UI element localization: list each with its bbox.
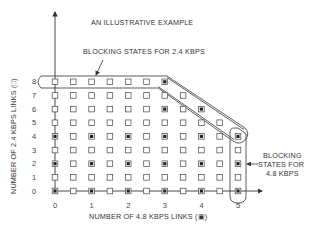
state-2-4-square: [199, 120, 205, 126]
y-tick-label: 2: [32, 159, 36, 168]
state-2-4-square: [144, 106, 150, 112]
filled-dot: [90, 189, 93, 192]
blocking-4-8-label-line1: BLOCKING: [263, 151, 302, 160]
state-2-4-square: [52, 120, 58, 126]
x-tick-label: 0: [53, 201, 57, 210]
state-2-4-square: [144, 188, 150, 194]
x-tick-label: 4: [199, 201, 203, 210]
state-2-4-square: [217, 188, 223, 194]
state-2-4-square: [89, 120, 95, 126]
state-2-4-square: [89, 106, 95, 112]
blocking-2-4-leader-arrow: [96, 60, 103, 75]
state-2-4-square: [180, 106, 186, 112]
blocking-2-4-label: BLOCKING STATES FOR 2.4 KBPS: [83, 47, 205, 56]
state-2-4-square: [144, 175, 150, 181]
filled-dot: [127, 189, 130, 192]
state-2-4-square: [180, 120, 186, 126]
x-tick-label: 3: [163, 201, 167, 210]
state-2-4-square: [125, 120, 131, 126]
state-2-4-square: [199, 175, 205, 181]
y-tick-label: 0: [32, 187, 36, 196]
x-tick-label: 2: [126, 201, 130, 210]
filled-dot: [90, 162, 93, 165]
filled-dot: [53, 189, 56, 192]
diagram-canvas: AN ILLUSTRATIVE EXAMPLE BLOCKING STATES …: [0, 0, 321, 241]
state-2-4-square: [180, 93, 186, 99]
y-tick-labels: 012345678: [32, 77, 36, 195]
diagram-title: AN ILLUSTRATIVE EXAMPLE: [91, 18, 193, 27]
state-2-4-square: [180, 134, 186, 140]
state-2-4-square: [107, 93, 113, 99]
x-tick-label: 5: [236, 201, 240, 210]
state-2-4-square: [89, 79, 95, 85]
filled-dot: [236, 189, 239, 192]
state-2-4-square: [107, 106, 113, 112]
filled-dot: [127, 162, 130, 165]
state-2-4-square: [107, 134, 113, 140]
y-tick-label: 4: [32, 132, 36, 141]
state-2-4-square: [144, 134, 150, 140]
filled-dot: [163, 108, 166, 111]
state-2-4-square: [144, 120, 150, 126]
y-axis-label: NUMBER OF 2.4 KBPS LINKS (□): [9, 78, 18, 194]
filled-dot: [163, 135, 166, 138]
state-2-4-square: [180, 147, 186, 153]
state-2-4-square: [144, 161, 150, 167]
x-tick-labels: 012345: [53, 201, 240, 210]
state-2-4-square: [125, 147, 131, 153]
filled-dot: [163, 162, 166, 165]
state-2-4-square: [125, 106, 131, 112]
state-2-4-square: [52, 106, 58, 112]
y-tick-label: 1: [32, 173, 36, 182]
state-2-4-square: [125, 175, 131, 181]
state-2-4-square: [107, 79, 113, 85]
y-tick-label: 8: [32, 77, 36, 86]
state-2-4-square: [180, 161, 186, 167]
y-tick-label: 5: [32, 118, 36, 127]
state-2-4-square: [217, 175, 223, 181]
state-2-4-square: [89, 147, 95, 153]
y-tick-label: 7: [32, 91, 36, 100]
state-2-4-square: [125, 79, 131, 85]
y-tick-label: 3: [32, 146, 36, 155]
state-2-4-square: [71, 147, 77, 153]
filled-dot: [236, 135, 239, 138]
state-2-4-square: [144, 93, 150, 99]
state-2-4-square: [89, 175, 95, 181]
state-2-4-square: [217, 120, 223, 126]
state-2-4-square: [107, 147, 113, 153]
state-2-4-square: [71, 93, 77, 99]
state-2-4-square: [107, 120, 113, 126]
state-grid: [52, 79, 241, 194]
state-2-4-square: [52, 147, 58, 153]
state-2-4-square: [199, 147, 205, 153]
filled-dot: [53, 162, 56, 165]
state-2-4-square: [180, 188, 186, 194]
state-2-4-square: [71, 175, 77, 181]
x-axis-label: NUMBER OF 4.8 KBPS LINKS (▣): [89, 212, 207, 221]
filled-dot: [200, 162, 203, 165]
filled-dot: [53, 135, 56, 138]
state-2-4-square: [52, 79, 58, 85]
state-2-4-square: [107, 161, 113, 167]
filled-dot: [90, 135, 93, 138]
state-2-4-square: [144, 147, 150, 153]
state-2-4-square: [71, 161, 77, 167]
filled-dot: [163, 189, 166, 192]
blocking-4-8-label-line3: 4.8 KBPS: [266, 169, 299, 178]
filled-dot: [127, 135, 130, 138]
state-2-4-square: [71, 79, 77, 85]
state-2-4-square: [89, 93, 95, 99]
filled-dot: [163, 80, 166, 83]
state-2-4-square: [71, 188, 77, 194]
state-2-4-square: [217, 161, 223, 167]
state-2-4-square: [71, 134, 77, 140]
state-2-4-square: [71, 106, 77, 112]
blocking-4-8-label-line2: STATES FOR: [258, 160, 304, 169]
filled-dot: [236, 162, 239, 165]
state-2-4-square: [180, 175, 186, 181]
y-tick-label: 6: [32, 105, 36, 114]
state-2-4-square: [52, 93, 58, 99]
state-2-4-square: [107, 188, 113, 194]
state-2-4-square: [52, 175, 58, 181]
